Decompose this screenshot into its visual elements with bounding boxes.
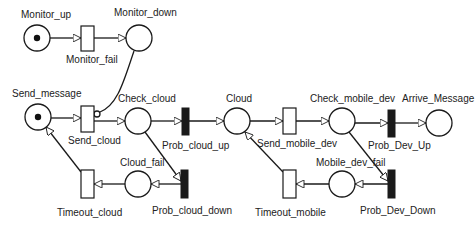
label-cloud: Cloud — [226, 93, 252, 104]
label-prob-cloud-down: Prob_cloud_down — [152, 205, 232, 216]
label-send-cloud: Send_cloud — [68, 135, 121, 146]
place-circle-icon — [329, 171, 355, 197]
label-check-cloud: Check_cloud — [118, 93, 176, 104]
label-monitor-down: Monitor_down — [114, 7, 177, 18]
place-send-message[interactable] — [25, 104, 51, 130]
place-check-mobile-dev[interactable] — [329, 108, 355, 134]
place-check-cloud[interactable] — [125, 108, 151, 134]
label-prob-cloud-up: Prob_cloud_up — [162, 140, 230, 151]
label-send-message: Send_message — [12, 88, 82, 99]
transition-monitor-fail[interactable] — [81, 26, 94, 51]
label-monitor-up: Monitor_up — [21, 9, 71, 20]
label-timeout-cloud: Timeout_cloud — [57, 207, 122, 218]
token-dot-icon — [34, 35, 40, 41]
transition-timeout-cloud[interactable] — [81, 170, 94, 198]
label-timeout-mobile: Timeout_mobile — [255, 207, 326, 218]
place-circle-icon — [329, 108, 355, 134]
place-arrive-message[interactable] — [426, 110, 452, 136]
label-prob-dev-down: Prob_Dev_Down — [360, 205, 436, 216]
place-cloud-fail[interactable] — [125, 171, 151, 197]
transition-send-mobile-dev[interactable] — [283, 108, 296, 134]
label-arrive-message: Arrive_Message — [402, 93, 475, 104]
transition-prob-cloud-down[interactable] — [181, 170, 188, 198]
place-circle-icon — [126, 25, 152, 51]
transition-prob-cloud-up[interactable] — [182, 108, 189, 135]
token-dot-icon — [35, 114, 41, 120]
transition-timeout-mobile[interactable] — [283, 170, 296, 198]
transition-prob-dev-down[interactable] — [388, 170, 395, 198]
transition-send-cloud[interactable] — [81, 106, 94, 132]
place-circle-icon — [224, 108, 250, 134]
transition-prob-dev-up[interactable] — [388, 110, 395, 137]
label-monitor-fail: Monitor_fail — [66, 54, 118, 65]
label-mobile-dev-fail: Mobile_dev_fail — [316, 157, 386, 168]
label-cloud-fail: Cloud_fail — [120, 157, 164, 168]
label-prob-dev-up: Prob_Dev_Up — [368, 140, 431, 151]
place-mobile-dev-fail[interactable] — [329, 171, 355, 197]
petri-net-diagram: Monitor_up Monitor_down Monitor_fail Sen… — [0, 0, 476, 227]
place-circle-icon — [426, 110, 452, 136]
place-cloud[interactable] — [224, 108, 250, 134]
place-monitor-up[interactable] — [24, 25, 50, 51]
label-send-mobile-dev: Send_mobile_dev — [257, 138, 337, 149]
inhibitor-circle-icon — [94, 111, 100, 117]
label-check-mobile-dev: Check_mobile_dev — [310, 93, 395, 104]
place-circle-icon — [125, 171, 151, 197]
place-circle-icon — [125, 108, 151, 134]
arc-timeout-cloud-to-send-message — [46, 127, 81, 172]
place-monitor-down[interactable] — [126, 25, 152, 51]
